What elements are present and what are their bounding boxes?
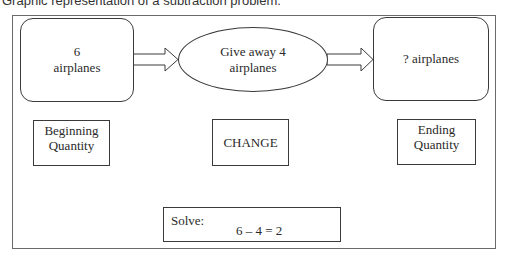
end-text: ? airplanes — [403, 51, 459, 67]
label-line: CHANGE — [223, 135, 277, 150]
change-unit: airplanes — [220, 60, 286, 76]
solve-equation: 6 – 4 = 2 — [236, 223, 282, 239]
change-action: Give away 4 — [220, 44, 286, 60]
block-arrow-icon — [133, 48, 178, 71]
ending-quantity-label: Ending Quantity — [397, 119, 476, 165]
change-label: CHANGE — [212, 119, 289, 166]
change-ellipse: Give away 4 airplanes — [178, 27, 328, 92]
block-arrow-icon — [327, 48, 373, 71]
solve-box: Solve: 6 – 4 = 2 — [163, 207, 341, 242]
end-quantity-box: ? airplanes — [373, 17, 489, 101]
label-line: Quantity — [414, 137, 460, 152]
solve-label: Solve: — [171, 213, 204, 229]
start-quantity-box: 6 airplanes — [20, 18, 134, 102]
label-line: Beginning — [44, 123, 98, 138]
label-line: Ending — [414, 122, 460, 137]
start-count: 6 — [54, 44, 101, 60]
beginning-quantity-label: Beginning Quantity — [33, 120, 110, 166]
start-unit: airplanes — [54, 60, 101, 76]
label-line: Quantity — [44, 138, 98, 153]
